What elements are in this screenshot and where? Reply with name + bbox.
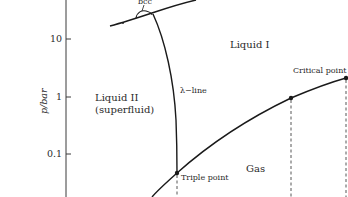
triple-point-label: Triple point: [181, 174, 229, 182]
mid-point-marker: [289, 96, 293, 100]
superfluid-label: (superfluid): [95, 105, 154, 115]
melting-curve: [110, 0, 196, 26]
y-tick-label-10: 10: [38, 34, 62, 44]
lambda-line-label: λ−line: [180, 87, 207, 95]
bcc-label: bcc: [138, 0, 152, 6]
melting-curve-marker: [122, 22, 124, 24]
critical-point-marker: [344, 76, 348, 80]
critical-point-label: Critical point: [293, 67, 347, 75]
liquid-II-label: Liquid II: [95, 93, 138, 103]
y-tick-label-0.1: 0.1: [38, 149, 62, 159]
y-axis-title: p/bar: [39, 88, 49, 114]
gas-label: Gas: [246, 164, 265, 174]
liquid-I-label: Liquid I: [230, 40, 269, 50]
triple-point-marker: [175, 171, 179, 175]
lambda-line: [153, 14, 177, 173]
